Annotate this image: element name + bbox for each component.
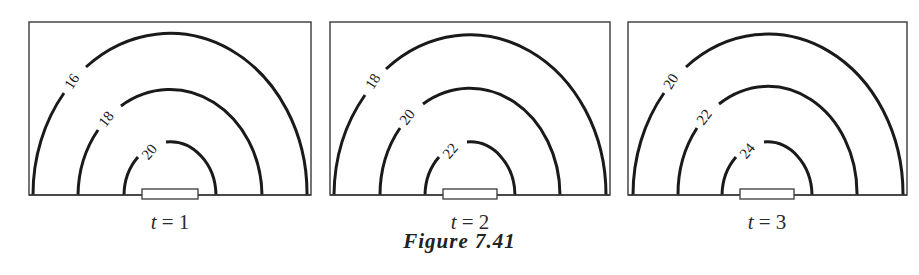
figure-caption: Figure 7.41 (0, 229, 919, 254)
contour-outer (686, 34, 903, 195)
contour-label: 22 (439, 140, 461, 162)
contour-inner (425, 157, 439, 195)
contour-inner (124, 157, 138, 195)
contour-label: 20 (138, 141, 160, 163)
contour-label: 18 (95, 108, 117, 130)
contour-middle (78, 130, 98, 195)
contour-middle (678, 128, 697, 195)
contour-inner (166, 142, 216, 195)
contour-outer (86, 33, 307, 195)
contour-inner (467, 142, 515, 195)
contour-outer (633, 93, 664, 195)
contour-middle (423, 88, 560, 195)
contour-middle (380, 128, 400, 195)
contour-outer (33, 93, 64, 195)
contour-label: 20 (396, 106, 418, 128)
contour-middle (121, 90, 262, 195)
contour-label: 16 (61, 70, 83, 92)
panel-frame (29, 22, 311, 195)
contour-outer (386, 35, 606, 195)
contour-inner (722, 157, 736, 195)
contour-outer (334, 95, 365, 195)
panel-frame (628, 22, 907, 195)
heater-rectangle (740, 189, 794, 199)
contour-label: 22 (693, 106, 715, 128)
panel-t1: 16 18 20 t = 1 (29, 22, 311, 234)
contour-label: 20 (660, 71, 682, 92)
contour-label: 18 (362, 71, 384, 92)
panel-t3: 20 22 24 t = 3 (628, 22, 907, 234)
contour-label: 24 (736, 140, 758, 162)
heater-rectangle (142, 189, 198, 199)
panel-frame (330, 22, 610, 195)
panel-t2: 18 20 22 t = 2 (330, 22, 610, 234)
heater-rectangle (443, 189, 497, 199)
contour-middle (719, 86, 857, 195)
contour-inner (764, 142, 812, 195)
